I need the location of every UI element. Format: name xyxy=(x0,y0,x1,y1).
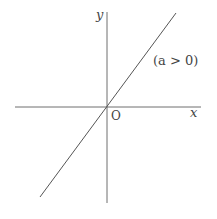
origin-label: O xyxy=(111,110,121,122)
x-axis-label: x xyxy=(190,106,197,119)
condition-label: (a > 0) xyxy=(153,54,198,67)
y-axis-label: y xyxy=(96,8,103,21)
graph-svg xyxy=(0,0,217,219)
graph-canvas: y (a > 0) O x xyxy=(0,0,217,219)
line-y-equals-ax xyxy=(40,13,176,197)
